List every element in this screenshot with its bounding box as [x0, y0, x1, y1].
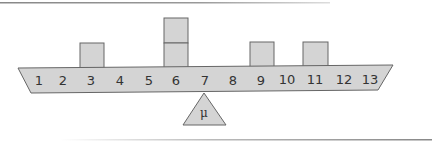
balance-diagram: μ 1 2 3 4 5 6 7 8 9 10 11 12 13 — [0, 0, 432, 143]
position-label: 3 — [87, 73, 95, 88]
weight-box-pos-6-top — [164, 18, 188, 43]
position-label: 1 — [35, 73, 43, 88]
position-label: 6 — [172, 73, 180, 88]
position-label: 10 — [279, 72, 296, 87]
position-label: 2 — [59, 73, 67, 88]
position-label: 8 — [229, 73, 237, 88]
position-label: 13 — [362, 72, 379, 87]
position-label: 4 — [116, 73, 124, 88]
weight-box-pos-9 — [250, 42, 274, 67]
bottom-rule — [60, 139, 432, 141]
top-rule — [0, 2, 330, 4]
weight-box-pos-6-bottom — [164, 43, 188, 68]
position-label: 12 — [336, 72, 353, 87]
position-label: 11 — [307, 72, 324, 87]
position-label: 9 — [257, 73, 265, 88]
weight-box-pos-11 — [303, 42, 328, 67]
position-label: 7 — [201, 73, 209, 88]
weight-box-pos-3 — [80, 43, 104, 68]
position-label: 5 — [145, 73, 153, 88]
fulcrum-label: μ — [200, 106, 208, 120]
